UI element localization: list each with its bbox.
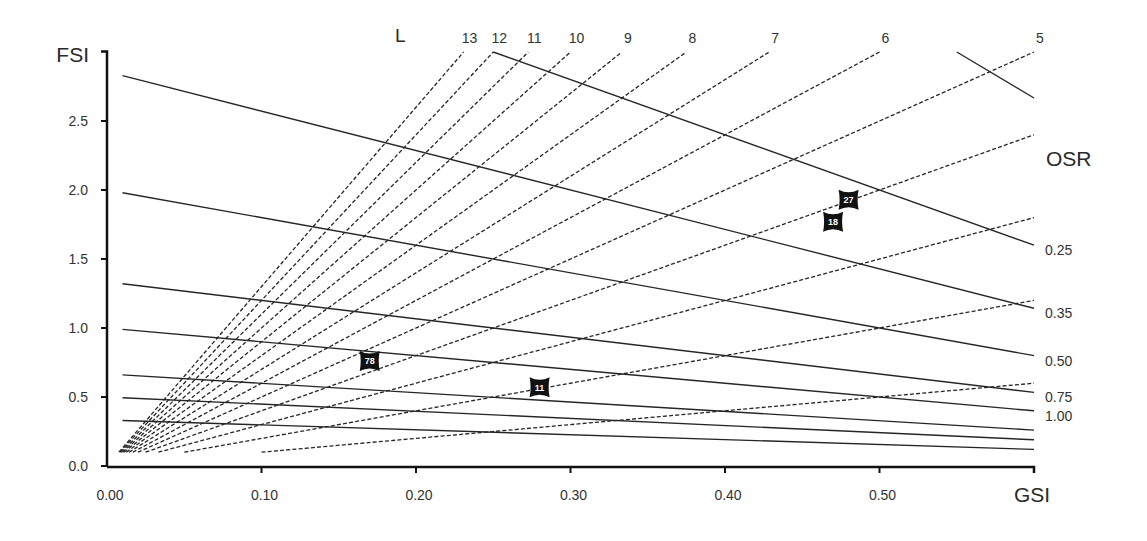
osr-label-osr-0-25: 0.25 [1045,242,1072,258]
data-point-marker: 78 [360,351,380,371]
layer-label-l-7: 7 [771,30,779,46]
osr-lines-title: OSR [1046,147,1092,170]
data-point-marker: 27 [839,190,859,210]
x-tick-label: 0.50 [869,487,896,503]
marker-label: 27 [844,195,854,205]
layer-label-l-13: 13 [462,30,478,46]
data-point-marker: 11 [530,377,550,397]
osr-label-osr-0-35: 0.35 [1045,305,1072,321]
x-tick-label: 0.20 [405,487,432,503]
y-tick-label: 2.5 [69,113,89,129]
y-tick-label: 1.0 [69,320,89,336]
layer-label-l-12: 12 [492,30,508,46]
marker-label: 18 [828,217,838,227]
spacematrix-chart: 0.00.51.01.52.02.5 0.000.100.200.300.400… [0,0,1147,541]
layer-label-l-11: 11 [527,30,542,46]
y-tick-label: 0.5 [69,389,89,405]
layer-label-l-10: 10 [569,30,585,46]
marker-label: 78 [365,356,375,366]
y-tick-label: 0.0 [69,458,89,474]
osr-label-osr-0-75: 0.75 [1045,389,1072,405]
layer-lines-title: L [395,25,406,46]
osr-label-osr-0-50: 0.50 [1045,353,1072,369]
y-tick-label: 1.5 [69,251,89,267]
x-tick-label: 0.00 [96,487,123,503]
layer-label-l-9: 9 [624,30,632,46]
y-axis-title: FSI [56,43,89,66]
y-tick-label: 2.0 [69,182,89,198]
osr-label-osr-1-00: 1.00 [1045,408,1072,424]
layer-label-l-8: 8 [689,30,697,46]
x-tick-label: 0.30 [560,487,587,503]
x-tick-label: 0.40 [714,487,741,503]
layer-label-l-6: 6 [882,30,890,46]
data-point-marker: 18 [823,212,843,232]
layer-label-l-5: 5 [1036,30,1044,46]
x-axis-title: GSI [1014,483,1050,506]
marker-label: 11 [535,383,545,393]
x-tick-label: 0.10 [251,487,278,503]
